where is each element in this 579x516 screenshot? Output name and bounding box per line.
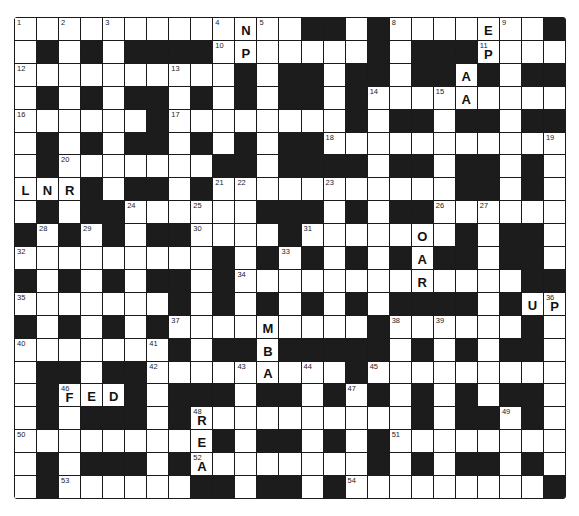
- grid-cell[interactable]: [346, 224, 367, 246]
- grid-cell[interactable]: [15, 407, 36, 429]
- grid-cell[interactable]: 15: [434, 87, 455, 109]
- grid-cell[interactable]: [103, 87, 124, 109]
- grid-cell[interactable]: 11P: [478, 41, 499, 63]
- grid-cell[interactable]: [544, 41, 565, 63]
- grid-cell[interactable]: [544, 247, 565, 269]
- grid-cell[interactable]: [37, 110, 58, 132]
- grid-cell[interactable]: [37, 316, 58, 338]
- grid-cell[interactable]: [390, 339, 411, 361]
- grid-cell[interactable]: [324, 293, 345, 315]
- grid-cell[interactable]: [434, 133, 455, 155]
- grid-cell[interactable]: [125, 110, 146, 132]
- grid-cell[interactable]: [324, 362, 345, 384]
- grid-cell[interactable]: [191, 155, 212, 177]
- grid-cell[interactable]: 33: [279, 247, 300, 269]
- grid-cell[interactable]: [346, 41, 367, 63]
- grid-cell[interactable]: [478, 87, 499, 109]
- grid-cell[interactable]: [257, 407, 278, 429]
- grid-cell[interactable]: R: [59, 178, 80, 200]
- grid-cell[interactable]: [434, 407, 455, 429]
- grid-cell[interactable]: [544, 201, 565, 223]
- grid-cell[interactable]: [191, 18, 212, 40]
- grid-cell[interactable]: [544, 430, 565, 452]
- grid-cell[interactable]: [37, 339, 58, 361]
- grid-cell[interactable]: 49: [500, 407, 521, 429]
- grid-cell[interactable]: D: [103, 384, 124, 406]
- grid-cell[interactable]: 47: [346, 384, 367, 406]
- grid-cell[interactable]: [279, 18, 300, 40]
- grid-cell[interactable]: 37: [169, 316, 190, 338]
- grid-cell[interactable]: [478, 224, 499, 246]
- grid-cell[interactable]: [279, 362, 300, 384]
- grid-cell[interactable]: [500, 41, 521, 63]
- grid-cell[interactable]: [544, 155, 565, 177]
- grid-cell[interactable]: [81, 316, 102, 338]
- grid-cell[interactable]: [59, 407, 80, 429]
- grid-cell[interactable]: [368, 476, 389, 498]
- grid-cell[interactable]: [434, 110, 455, 132]
- grid-cell[interactable]: [59, 133, 80, 155]
- grid-cell[interactable]: 32: [15, 247, 36, 269]
- grid-cell[interactable]: [213, 224, 234, 246]
- grid-cell[interactable]: [390, 64, 411, 86]
- grid-cell[interactable]: [213, 87, 234, 109]
- grid-cell[interactable]: [478, 247, 499, 269]
- grid-cell[interactable]: 52A: [191, 453, 212, 475]
- grid-cell[interactable]: [235, 430, 256, 452]
- grid-cell[interactable]: [59, 110, 80, 132]
- grid-cell[interactable]: [522, 41, 543, 63]
- grid-cell[interactable]: [279, 270, 300, 292]
- grid-cell[interactable]: [434, 430, 455, 452]
- grid-cell[interactable]: [169, 430, 190, 452]
- grid-cell[interactable]: [324, 41, 345, 63]
- grid-cell[interactable]: 51: [390, 430, 411, 452]
- grid-cell[interactable]: [302, 476, 323, 498]
- grid-cell[interactable]: P: [235, 41, 256, 63]
- grid-cell[interactable]: [81, 64, 102, 86]
- grid-cell[interactable]: [125, 247, 146, 269]
- grid-cell[interactable]: [59, 41, 80, 63]
- grid-cell[interactable]: [213, 316, 234, 338]
- grid-cell[interactable]: [15, 362, 36, 384]
- grid-cell[interactable]: [500, 155, 521, 177]
- grid-cell[interactable]: [390, 476, 411, 498]
- grid-cell[interactable]: [324, 270, 345, 292]
- grid-cell[interactable]: [59, 87, 80, 109]
- grid-cell[interactable]: [81, 247, 102, 269]
- grid-cell[interactable]: [59, 430, 80, 452]
- grid-cell[interactable]: [59, 339, 80, 361]
- grid-cell[interactable]: [15, 384, 36, 406]
- grid-cell[interactable]: 2: [59, 18, 80, 40]
- grid-cell[interactable]: [235, 247, 256, 269]
- grid-cell[interactable]: 54: [346, 476, 367, 498]
- grid-cell[interactable]: [324, 407, 345, 429]
- grid-cell[interactable]: [257, 110, 278, 132]
- grid-cell[interactable]: [15, 201, 36, 223]
- grid-cell[interactable]: [59, 293, 80, 315]
- grid-cell[interactable]: [103, 155, 124, 177]
- grid-cell[interactable]: [147, 476, 168, 498]
- grid-cell[interactable]: [59, 201, 80, 223]
- grid-cell[interactable]: [324, 453, 345, 475]
- grid-cell[interactable]: 39: [434, 316, 455, 338]
- grid-cell[interactable]: [346, 178, 367, 200]
- grid-cell[interactable]: O: [412, 224, 433, 246]
- grid-cell[interactable]: [257, 41, 278, 63]
- grid-cell[interactable]: [15, 476, 36, 498]
- grid-cell[interactable]: [235, 201, 256, 223]
- grid-cell[interactable]: B: [257, 339, 278, 361]
- grid-cell[interactable]: [500, 430, 521, 452]
- grid-cell[interactable]: [257, 453, 278, 475]
- grid-cell[interactable]: 46F: [59, 384, 80, 406]
- grid-cell[interactable]: [147, 293, 168, 315]
- grid-cell[interactable]: [169, 201, 190, 223]
- grid-cell[interactable]: A: [456, 87, 477, 109]
- grid-cell[interactable]: [500, 476, 521, 498]
- grid-cell[interactable]: [81, 18, 102, 40]
- grid-cell[interactable]: 26: [434, 201, 455, 223]
- grid-cell[interactable]: [368, 224, 389, 246]
- grid-cell[interactable]: [279, 293, 300, 315]
- grid-cell[interactable]: [125, 270, 146, 292]
- grid-cell[interactable]: 23: [324, 178, 345, 200]
- grid-cell[interactable]: [103, 293, 124, 315]
